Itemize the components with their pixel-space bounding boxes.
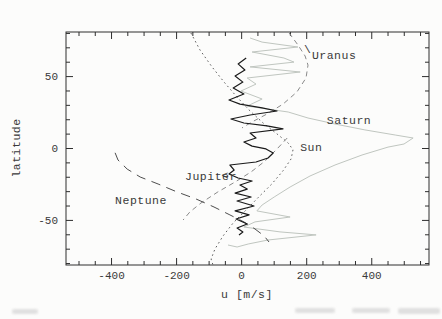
annotation-uranus-leader: \	[304, 43, 311, 56]
x-axis-label: u [m/s]	[221, 288, 273, 301]
x-tick-label: 200	[297, 270, 317, 282]
plot-frame	[66, 32, 429, 265]
y-axis-label: latitude	[10, 118, 23, 177]
wind-profile-chart: -400-2000200400-50050Uranus\SaturnSunJup…	[0, 0, 442, 319]
y-tick-label: 50	[45, 71, 58, 83]
annotation-uranus-label: Uranus	[312, 49, 356, 62]
caption-smudge	[352, 308, 390, 313]
x-tick-label: 0	[238, 270, 245, 282]
annotation-saturn-label: Saturn	[327, 114, 371, 127]
caption-smudge	[295, 308, 335, 313]
x-tick-label: -400	[98, 270, 124, 282]
x-tick-label: 400	[362, 270, 382, 282]
y-tick-label: 0	[51, 143, 58, 155]
annotation-jupiter-label: Jupiter	[185, 170, 237, 183]
y-tick-label: -50	[38, 215, 58, 227]
caption-smudge	[398, 308, 440, 314]
annotation-neptune-label: Neptune	[115, 194, 167, 207]
zonal-wind-figure: -400-2000200400-50050Uranus\SaturnSunJup…	[0, 0, 442, 319]
x-tick-label: -200	[163, 270, 189, 282]
annotation-jupiter-arrow: <	[221, 169, 228, 182]
annotation-sun-label: Sun	[300, 141, 322, 154]
caption-smudge	[12, 309, 38, 314]
